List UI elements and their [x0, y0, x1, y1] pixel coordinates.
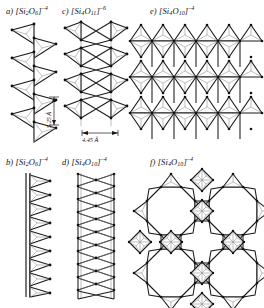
panel-f: f) [Si4O10]–4 [128, 152, 264, 308]
panel-e: e) [Si4O10]–4 [128, 0, 264, 150]
panel-e-hexagonal-sheet-diagram [130, 19, 262, 147]
panel-c-label: c) [Si4O11]–6 [62, 5, 106, 16]
panel-c-dimension-label: 4.45 Å [82, 136, 98, 143]
panel-c: c) [Si4O11]–6 [58, 0, 130, 150]
panel-a-label: a) [Si2O6]–4 [6, 5, 48, 16]
panel-a: a) [Si2O6]–4 [0, 0, 62, 150]
panel-a-dimension-label: 5.25 Å [45, 112, 52, 128]
panel-b-chain-projection-diagram [12, 171, 54, 299]
panel-f-label: f) [Si4O10]–4 [150, 156, 193, 167]
silicate-structures-figure: a) [Si2O6]–4 [0, 0, 264, 308]
panel-c-double-chain-diagram [63, 20, 129, 130]
panel-b: b) [Si2O6]–4 [0, 152, 62, 308]
panel-f-octagonal-sheet-diagram [129, 171, 263, 307]
panel-d: d) [Si4O10]–4 [58, 152, 130, 308]
panel-e-label: e) [Si4O10]–4 [150, 5, 194, 16]
panel-d-label: d) [Si4O10]–4 [62, 156, 107, 167]
panel-b-label: b) [Si2O6]–4 [6, 156, 48, 167]
panel-d-double-chain-projection-diagram [72, 171, 120, 301]
